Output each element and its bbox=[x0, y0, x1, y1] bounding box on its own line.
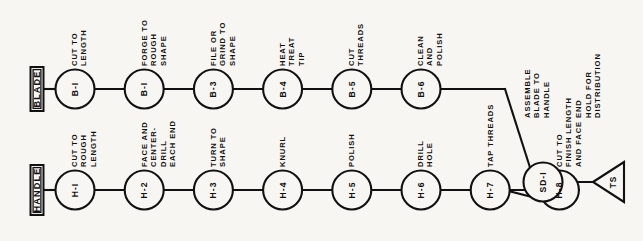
node-code-handle-6: H-7 bbox=[485, 182, 495, 199]
node-code-handle-4: H-5 bbox=[347, 182, 357, 199]
node-desc-blade-5: CLEAN AND POLISH bbox=[416, 32, 444, 66]
node-desc-handle-1: FACE AND CENTER- DRILL EACH END bbox=[140, 120, 177, 167]
node-code-blade-0: B-I bbox=[70, 82, 80, 96]
node-code-blade-3: B-4 bbox=[278, 81, 288, 98]
node-desc-blade-4: CUT THREADS bbox=[347, 22, 366, 65]
node-desc-handle-3: KNURL bbox=[278, 135, 287, 166]
node-desc-handle-6: TAP THREADS bbox=[486, 103, 495, 166]
process-chart-canvas: BLADEB-ICUT TO LENGTHB-IFORGE TO ROUGH S… bbox=[0, 0, 643, 241]
node-desc-blade-2: FILE OR GRIND TO SHAPE bbox=[209, 21, 237, 65]
node-code-blade-1: B-I bbox=[139, 82, 149, 96]
node-code-handle-1: H-2 bbox=[139, 182, 149, 199]
node-desc-handle-5: DRILL HOLE bbox=[416, 140, 435, 167]
node-code-handle-0: H-I bbox=[70, 183, 80, 197]
node-desc-blade-1: FORGE TO ROUGH SHAPE bbox=[140, 19, 168, 66]
node-code-blade-5: B-6 bbox=[416, 81, 426, 98]
node-desc-handle-2: TURN TO SHAPE bbox=[209, 127, 228, 167]
storage-code: TS bbox=[609, 176, 618, 188]
row-label-blade-label: BLADE bbox=[32, 70, 42, 107]
row-label-handle-label: HANDLE bbox=[32, 168, 42, 213]
node-desc-blade-0: CUT TO LENGTH bbox=[70, 29, 89, 66]
storage-desc: HOLD FOR DISTRIBUTION bbox=[584, 53, 603, 118]
node-code-blade-4: B-5 bbox=[347, 81, 357, 98]
node-code-assembly: SD-I bbox=[538, 171, 548, 192]
node-code-handle-7: H-8 bbox=[554, 182, 564, 199]
node-desc-assembly: ASSEMBLE BLADE TO HANDLE bbox=[523, 69, 551, 118]
operation-nodes bbox=[56, 70, 579, 210]
node-desc-blade-3: HEAT TREAT TIP bbox=[278, 36, 306, 65]
node-code-blade-2: B-3 bbox=[208, 81, 218, 98]
node-desc-handle-7: CUT TO FINISH LENGTH AND FACE END bbox=[555, 97, 583, 167]
node-desc-handle-4: POLISH bbox=[347, 133, 356, 167]
node-code-handle-5: H-6 bbox=[416, 182, 426, 199]
node-code-handle-3: H-4 bbox=[278, 182, 288, 199]
node-code-handle-2: H-3 bbox=[208, 182, 218, 199]
node-desc-handle-0: CUT TO ROUGH LENGTH bbox=[70, 130, 98, 167]
process-chart-svg bbox=[0, 0, 643, 241]
